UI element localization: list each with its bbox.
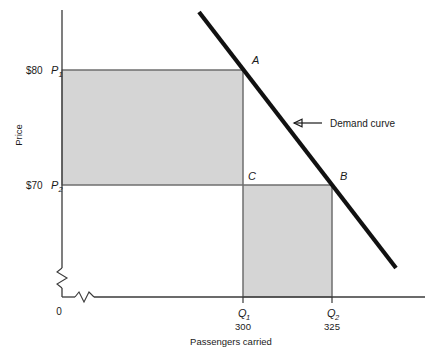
price-label-p1-money: $80 — [26, 65, 43, 76]
revenue-rectangle-upper — [62, 70, 243, 185]
y-axis-break-icon — [57, 268, 67, 288]
y-axis-label: Price — [13, 124, 24, 146]
point-label-a: A — [251, 54, 259, 66]
demand-curve-annotation-label: Demand curve — [330, 118, 395, 129]
quantity-value-q1: 300 — [235, 321, 251, 332]
price-label-p2-money: $70 — [26, 180, 43, 191]
x-axis-label: Passengers carried — [190, 336, 272, 347]
price-label-p2-subscript: 2 — [58, 185, 64, 194]
chart-canvas: Price $80 P 1 $70 P 2 0 Q 1 300 Q 2 325 … — [0, 0, 436, 355]
economics-demand-chart: Price $80 P 1 $70 P 2 0 Q 1 300 Q 2 325 … — [0, 0, 436, 355]
point-label-b: B — [340, 170, 347, 182]
revenue-rectangle-lower — [243, 185, 332, 297]
origin-label: 0 — [56, 306, 62, 317]
x-axis-break-icon — [75, 292, 94, 302]
quantity-value-q2: 325 — [324, 321, 340, 332]
price-label-p1-subscript: 1 — [59, 70, 63, 79]
point-label-c: C — [248, 170, 256, 182]
